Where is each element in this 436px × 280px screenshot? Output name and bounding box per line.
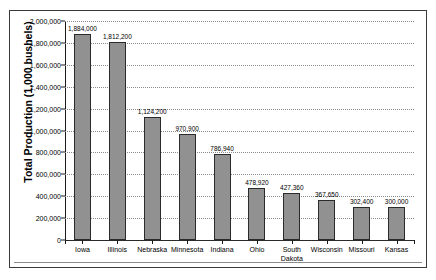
bar-chart-figure: Total Production (1,000 bushels) 0200,00… xyxy=(0,0,436,280)
y-axis-tick-mark xyxy=(61,21,65,22)
x-axis-category-label: Kansas xyxy=(385,246,408,255)
y-axis-tick-label: 1,800,000 xyxy=(30,39,61,46)
bar-value-label: 970,900 xyxy=(175,125,199,132)
x-axis-tick-mark xyxy=(222,240,223,244)
x-axis-category-labels: IowaIllinoisNebraskaMinnesotaIndianaOhio… xyxy=(65,246,414,274)
x-axis-category-label: Iowa xyxy=(75,246,90,255)
bar xyxy=(214,154,231,240)
y-axis-tick-mark xyxy=(61,240,65,241)
bar xyxy=(318,200,335,240)
y-axis-tick-mark xyxy=(61,130,65,131)
y-axis-tick-label: 1,200,000 xyxy=(30,105,61,112)
bar-value-label: 367,650 xyxy=(315,191,339,198)
bar xyxy=(283,193,300,240)
y-axis-tick-mark xyxy=(61,42,65,43)
x-axis-tick-mark xyxy=(152,240,153,244)
bar-value-label: 427,360 xyxy=(280,184,304,191)
bar xyxy=(179,134,196,240)
x-axis-tick-mark xyxy=(292,240,293,244)
bar xyxy=(353,207,370,240)
x-axis-boundary-tick xyxy=(414,240,415,244)
y-axis-tick-mark xyxy=(61,108,65,109)
x-axis-category-label: South Dakota xyxy=(281,246,303,263)
y-axis-tick-label: 2,000,000 xyxy=(30,18,61,25)
bar xyxy=(74,34,91,240)
plot-area: 1,884,0001,812,2001,124,200970,900786,94… xyxy=(65,21,414,240)
x-axis-category-label: Wisconsin xyxy=(311,246,343,255)
y-axis-tick-label: 600,000 xyxy=(36,171,61,178)
x-axis-tick-mark xyxy=(82,240,83,244)
x-axis-category-label: Indiana xyxy=(211,246,234,255)
y-axis-tick-mark xyxy=(61,152,65,153)
y-axis-tick-mark xyxy=(61,64,65,65)
gridline xyxy=(65,21,414,22)
bar-value-label: 1,124,200 xyxy=(138,108,167,115)
x-axis-category-label: Minnesota xyxy=(171,246,203,255)
y-axis-tick-mark xyxy=(61,174,65,175)
x-axis-category-label: Illinois xyxy=(108,246,127,255)
x-axis-tick-mark xyxy=(327,240,328,244)
x-axis-boundary-tick xyxy=(65,240,66,244)
x-axis-tick-mark xyxy=(257,240,258,244)
x-axis-tick-mark xyxy=(397,240,398,244)
bar-value-label: 786,940 xyxy=(210,145,234,152)
y-axis-tick-label: 1,000,000 xyxy=(30,127,61,134)
x-axis-tick-mark xyxy=(362,240,363,244)
y-axis-tick-label: 400,000 xyxy=(36,193,61,200)
bottom-divider xyxy=(14,262,422,263)
bar-value-label: 302,400 xyxy=(350,198,374,205)
bar-value-label: 1,812,200 xyxy=(103,33,132,40)
x-axis-tick-mark xyxy=(187,240,188,244)
y-axis-tick-mark xyxy=(61,86,65,87)
bar xyxy=(144,117,161,240)
bar xyxy=(109,42,126,240)
x-axis-tick-mark xyxy=(117,240,118,244)
x-axis-tick-marks xyxy=(65,240,414,245)
bar-value-label: 300,000 xyxy=(385,198,409,205)
x-axis-category-label: Nebraska xyxy=(137,246,167,255)
y-axis-tick-mark xyxy=(61,218,65,219)
y-axis-tick-labels: 0200,000400,000600,000800,0001,000,0001,… xyxy=(0,21,61,240)
x-axis-category-label: Ohio xyxy=(250,246,265,255)
bar-value-label: 1,884,000 xyxy=(68,25,97,32)
y-axis-tick-label: 1,600,000 xyxy=(30,61,61,68)
bar xyxy=(248,188,265,240)
y-axis-tick-label: 800,000 xyxy=(36,149,61,156)
y-axis-tick-label: 200,000 xyxy=(36,215,61,222)
bar-value-label: 478,920 xyxy=(245,179,269,186)
y-axis-tick-label: 1,400,000 xyxy=(30,83,61,90)
y-axis-tick-mark xyxy=(61,196,65,197)
bar xyxy=(388,207,405,240)
x-axis-category-label: Missouri xyxy=(349,246,375,255)
